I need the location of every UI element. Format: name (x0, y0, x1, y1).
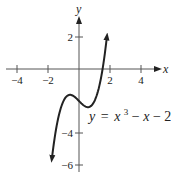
x-tick-label: −2 (42, 74, 54, 86)
y-tick-label: 2 (68, 31, 74, 43)
cubic-function-graph: −4−2242−4−6 x y y = x 3 − x − 2 (0, 0, 171, 176)
y-axis-label: y (75, 2, 82, 16)
x-axis-label: x (162, 62, 169, 76)
y-tick-label: −4 (61, 127, 73, 139)
axes (6, 20, 158, 172)
y-tick-label: −6 (61, 159, 73, 171)
equation-label: y = x 3 − x − 2 (87, 103, 171, 124)
x-tick-label: −4 (11, 74, 23, 86)
x-tick-label: 4 (138, 74, 144, 86)
x-tick-label: 2 (107, 74, 113, 86)
